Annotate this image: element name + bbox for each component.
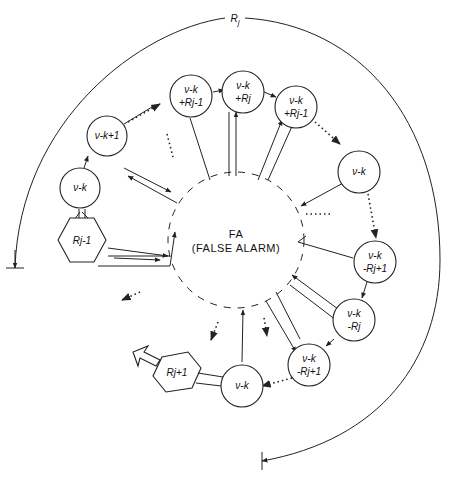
svg-text:ν-k: ν-k xyxy=(352,166,366,177)
spokes xyxy=(98,112,353,362)
hexagon-label: Rj-1 xyxy=(73,235,91,246)
svg-text:ν-k: ν-k xyxy=(347,308,361,319)
false-alarm-state-diagram: Rj FA (FALSE ALARM) xyxy=(0,0,453,479)
svg-text:ν-k: ν-k xyxy=(302,353,316,364)
svg-text:ν-k: ν-k xyxy=(73,182,87,193)
false-alarm-center: FA (FALSE ALARM) xyxy=(168,172,304,308)
svg-text:ν-k: ν-k xyxy=(236,80,250,91)
outer-arc-label: Rj xyxy=(230,13,239,27)
state-node: ν-k -Rj+1 xyxy=(288,344,330,386)
svg-text:ν-k: ν-k xyxy=(289,95,303,106)
state-node: ν-k -Rj+1 xyxy=(354,241,396,283)
svg-text:-Rj+1: -Rj+1 xyxy=(297,366,321,377)
svg-text:+Rj: +Rj xyxy=(235,93,251,104)
hexagon-label: Rj+1 xyxy=(167,367,188,378)
svg-text:ν-k: ν-k xyxy=(235,380,249,391)
svg-text:ν-k: ν-k xyxy=(368,250,382,261)
hexagon-rj-minus-1: Rj-1 xyxy=(58,209,106,262)
ellipsis-marks xyxy=(122,134,330,340)
state-node: ν-k xyxy=(221,365,263,407)
svg-text:+Rj-1: +Rj-1 xyxy=(284,108,308,119)
state-node: ν-k +Rj xyxy=(222,71,264,113)
state-node: ν-k+1 xyxy=(87,116,127,156)
hexagon-rj-plus-1: Rj+1 xyxy=(133,346,223,392)
svg-text:ν-k+1: ν-k+1 xyxy=(95,130,120,141)
state-node: ν-k +Rj-1 xyxy=(275,86,317,128)
svg-text:-Rj: -Rj xyxy=(348,321,362,332)
state-node: ν-k xyxy=(338,151,380,193)
state-node: ν-k xyxy=(60,168,100,208)
svg-text:ν-k: ν-k xyxy=(184,84,198,95)
svg-text:+Rj-1: +Rj-1 xyxy=(179,97,203,108)
state-node: ν-k -Rj xyxy=(333,299,375,341)
state-node: ν-k +Rj-1 xyxy=(170,75,212,117)
center-label-fa: FA xyxy=(229,228,244,240)
svg-text:-Rj+1: -Rj+1 xyxy=(363,263,387,274)
center-label-false-alarm: (FALSE ALARM) xyxy=(192,242,280,254)
